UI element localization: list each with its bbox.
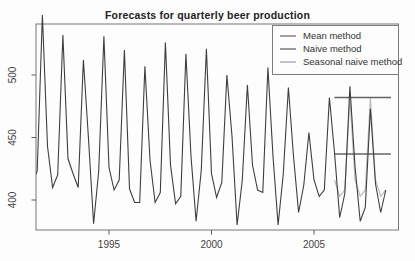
- naive-method-key-line-icon: [280, 48, 296, 50]
- legend-row-naive: Naive method: [273, 42, 398, 55]
- y-tick-label: 500: [7, 66, 18, 83]
- legend-row-seasonal-naive: Seasonal naive method: [273, 55, 398, 68]
- y-tick-label: 400: [7, 191, 18, 208]
- legend-label-seasonal-naive: Seasonal naive method: [303, 56, 402, 67]
- seasonal-naive-method-key-line-icon: [280, 61, 296, 63]
- mean-method-key-line-icon: [280, 35, 296, 37]
- legend: Mean method Naive method Seasonal naive …: [272, 25, 399, 75]
- chart-figure: Forecasts for quarterly beer production …: [0, 0, 415, 261]
- x-tick-label: 2005: [303, 239, 326, 250]
- legend-label-naive: Naive method: [303, 43, 362, 54]
- seasonal-naive-forecast-line: [335, 98, 386, 197]
- y-tick-label: 450: [7, 129, 18, 146]
- legend-row-mean: Mean method: [273, 29, 398, 42]
- x-tick-label: 2000: [200, 239, 223, 250]
- legend-label-mean: Mean method: [303, 30, 361, 41]
- x-tick-label: 1995: [98, 239, 121, 250]
